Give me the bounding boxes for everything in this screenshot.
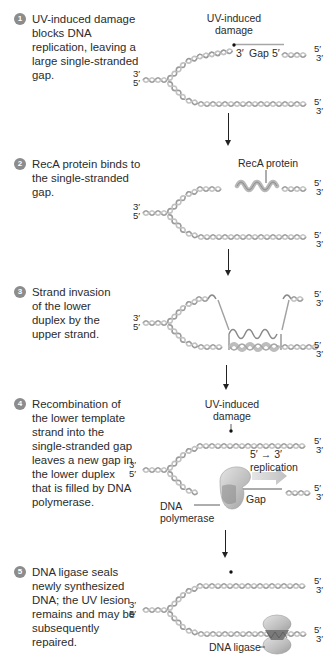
end-lower-right-bottom: 3′: [316, 492, 323, 501]
reca-protein-label: RecA protein: [238, 157, 298, 169]
gap-5-prime-label: 5′: [272, 47, 280, 59]
end-upper-right-bottom: 3′: [316, 187, 323, 196]
uv-damage-label: UV-induced damage: [206, 12, 262, 36]
end-left-bottom: 5′: [133, 322, 140, 331]
arrow-step1-to-2: [228, 113, 229, 141]
end-upper-right-bottom: 3′: [316, 585, 323, 594]
step-3-fork: [143, 295, 318, 350]
step-number-badge: 3: [14, 286, 26, 298]
step-2-fork: [143, 170, 306, 239]
end-left-bottom: 5′: [129, 469, 136, 478]
end-lower-right-bottom: 3′: [316, 349, 323, 358]
step-3-description: 3 Strand invasion of the lower duplex by…: [14, 285, 114, 341]
gap-label: Gap: [249, 47, 269, 59]
end-left-bottom: 5′: [133, 211, 140, 220]
end-lower-right-bottom: 3′: [316, 239, 323, 248]
step-1-description: 1 UV-induced damage blocks DNA replicati…: [14, 12, 144, 82]
arrow-step4-to-5: [225, 530, 226, 553]
end-upper-right-bottom: 3′: [316, 53, 323, 62]
step-1-fork: [143, 43, 306, 106]
end-lower-right-bottom: 3′: [316, 106, 323, 115]
step-number-badge: 4: [14, 398, 26, 410]
direction-label: 5′ → 3′: [250, 448, 282, 460]
gap-3-prime-label: 3′: [236, 47, 244, 59]
step-2-description: 2 RecA protein binds to the single-stran…: [14, 157, 144, 199]
arrow-step3-to-4: [226, 365, 227, 385]
arrow-step2-to-3: [228, 249, 229, 271]
end-lower-right-bottom: 3′: [316, 634, 323, 643]
step-number-badge: 5: [14, 566, 26, 578]
step-number-badge: 1: [14, 13, 26, 25]
step-number-badge: 2: [14, 158, 26, 170]
end-upper-right-bottom: 3′: [316, 445, 323, 454]
end-left-bottom: 5′: [129, 609, 136, 618]
end-left-bottom: 5′: [133, 78, 140, 87]
step-4-description: 4 Recombination of the lower template st…: [14, 397, 136, 509]
end-upper-right-bottom: 3′: [316, 298, 323, 307]
replication-label: replication: [250, 461, 298, 473]
step-5-description: 5 DNA ligase seals newly synthesized DNA…: [14, 565, 138, 649]
gap-label: Gap: [246, 493, 266, 505]
uv-damage-label: UV-induced damage: [204, 398, 260, 422]
dna-polymerase-label: DNA polymerase: [160, 500, 210, 524]
dna-ligase-label: DNA ligase: [209, 641, 261, 653]
